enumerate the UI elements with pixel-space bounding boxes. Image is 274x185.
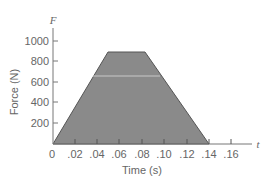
svg-text:600: 600 xyxy=(31,76,49,88)
svg-text:200: 200 xyxy=(31,117,49,129)
svg-text:.12: .12 xyxy=(179,148,194,160)
svg-text:.08: .08 xyxy=(134,148,149,160)
svg-text:1000: 1000 xyxy=(25,35,49,47)
svg-text:.06: .06 xyxy=(111,148,126,160)
y-axis-variable: F xyxy=(49,14,57,26)
y-axis-title: Force (N) xyxy=(8,69,20,115)
svg-text:.14: .14 xyxy=(201,148,216,160)
y-ticks xyxy=(53,41,58,123)
y-tick-labels: 200 400 600 800 1000 xyxy=(25,35,49,129)
x-axis-variable: t xyxy=(256,138,260,150)
force-time-chart: 200 400 600 800 1000 0 .02 .04 .06 .08 .… xyxy=(0,0,274,185)
x-axis-title: Time (s) xyxy=(122,164,162,176)
svg-text:.10: .10 xyxy=(156,148,171,160)
svg-text:400: 400 xyxy=(31,96,49,108)
force-area xyxy=(53,52,209,144)
svg-text:0: 0 xyxy=(49,148,55,160)
svg-text:.04: .04 xyxy=(89,148,104,160)
svg-text:800: 800 xyxy=(31,55,49,67)
x-tick-labels: 0 .02 .04 .06 .08 .10 .12 .14 .16 xyxy=(49,148,239,160)
svg-text:.02: .02 xyxy=(67,148,82,160)
svg-text:.16: .16 xyxy=(223,148,238,160)
